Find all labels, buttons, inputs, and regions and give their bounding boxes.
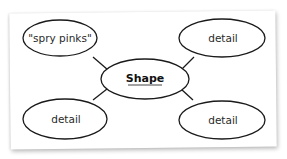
node-label: detail	[208, 32, 238, 44]
center-label: Shape	[126, 72, 165, 85]
connector-top-left	[93, 57, 108, 70]
node-center: Shape	[101, 59, 189, 99]
diagram-canvas: "spry pinks" detail Shape detail detail	[0, 0, 287, 159]
node-label: detail	[208, 114, 238, 126]
node-top-left: "spry pinks"	[23, 20, 97, 56]
connector-bottom-right	[181, 89, 193, 100]
node-label: detail	[51, 113, 81, 125]
connector-top-right	[182, 57, 194, 69]
node-bottom-left: detail	[23, 99, 107, 139]
node-label: "spry pinks"	[28, 32, 91, 44]
node-bottom-right: detail	[179, 101, 265, 139]
node-top-right: detail	[179, 19, 265, 57]
connector-bottom-left	[93, 89, 107, 100]
